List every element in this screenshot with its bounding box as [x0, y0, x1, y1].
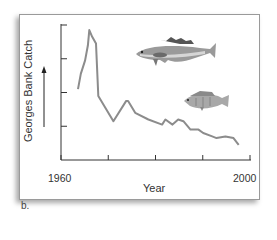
perch-fish-illustration [184, 91, 229, 111]
x-axis-label: Year [143, 182, 165, 194]
x-tick-label-1960: 1960 [48, 172, 71, 184]
x-tick-label-2000: 2000 [233, 172, 256, 184]
arrow-up-icon [42, 66, 47, 127]
y-axis-label: Georges Bank Catch [22, 36, 34, 146]
y-ticks [61, 25, 67, 126]
x-ticks [61, 155, 250, 160]
cod-fish-illustration [136, 37, 216, 66]
figure-caption: b. [21, 200, 29, 211]
